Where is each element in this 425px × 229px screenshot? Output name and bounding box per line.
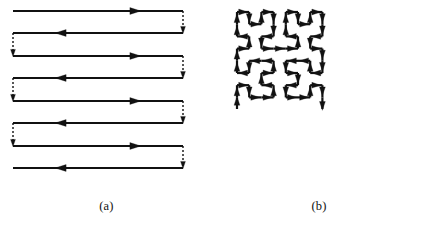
hilbert-arrow-39 [295,14,301,23]
hilbert-arrow-30 [259,38,265,47]
hilbert-arrow-25 [259,14,265,23]
hilbert-arrow-12 [251,58,260,64]
hilbert-arrow-19 [239,34,248,40]
hilbert-arrow-37 [283,14,289,23]
hilbert-arrow-36 [283,26,289,35]
hilbert-arrow-16 [234,50,240,59]
hilbert-arrow-35 [288,34,297,40]
hilbert-arrow-11 [263,58,272,64]
hilbert-entry-arrow [234,96,240,105]
hilbert-arrow-49 [320,63,326,72]
hilbert-arrow-13 [246,63,252,72]
hilbert-arrow-44 [320,26,326,35]
hilbert-arrow-21 [234,14,240,23]
scan-arrow-row-3 [130,53,141,60]
hilbert-arrow-9 [263,70,272,76]
hilbert-arrow-63 [320,87,326,96]
hilbert-arrow-61 [307,87,313,96]
caption-panel-a: (a) [0,200,213,213]
hilbert-arrow-1 [234,87,240,96]
scan-arrow-row-6 [55,120,66,127]
figure-root: (a) (b) [0,0,425,229]
hilbert-arrow-20 [234,26,240,35]
hilbert-arrow-5 [263,95,272,101]
hilbert-arrow-58 [283,87,289,96]
hilbert-arrow-18 [246,38,252,47]
hilbert-arrow-29 [263,34,272,40]
hilbert-arrow-28 [271,26,277,35]
hilbert-arrow-62 [312,82,321,88]
hilbert-arrow-46 [307,38,313,47]
panel-hilbert-curve: (b) [213,0,425,229]
hilbert-arrow-15 [234,63,240,72]
hilbert-arrow-45 [312,34,321,40]
hilbert-arrow-41 [307,14,313,23]
hilbert-arrow-47 [312,46,321,52]
hilbert-arrow-23 [246,14,252,23]
hilbert-curve-diagram [213,0,425,229]
scan-arrow-row-7 [130,143,141,150]
hilbert-arrow-55 [288,70,297,76]
caption-panel-b: (b) [213,200,425,213]
hilbert-arrow-4 [251,95,260,101]
hilbert-arrow-52 [300,58,309,64]
hilbert-arrow-31 [263,46,272,52]
panel-raster-scan: (a) [0,0,213,229]
hilbert-arrow-3 [246,87,252,96]
hilbert-arrow-2 [239,82,248,88]
hilbert-arrow-57 [288,82,297,88]
hilbert-arrow-50 [312,70,321,76]
hilbert-arrow-33 [288,46,297,52]
hilbert-arrow-10 [271,63,277,72]
hilbert-exit-arrow [320,102,326,111]
scan-arrow-row-4 [55,75,66,82]
hilbert-arrow-26 [263,9,272,15]
hilbert-arrow-60 [300,95,309,101]
hilbert-arrow-53 [288,58,297,64]
hilbert-arrow-43 [320,14,326,23]
scan-arrow-row-8 [55,165,66,172]
hilbert-arrow-27 [271,14,277,23]
hilbert-arrow-54 [283,63,289,72]
hilbert-arrow-17 [239,46,248,52]
hilbert-arrow-59 [288,95,297,101]
hilbert-arrow-32 [275,46,284,52]
hilbert-arrow-14 [239,70,248,76]
hilbert-arrow-7 [263,82,272,88]
hilbert-arrow-40 [300,21,309,27]
raster-scan-diagram [0,0,213,229]
scan-arrow-row-5 [130,98,141,105]
hilbert-arrow-42 [312,9,321,15]
hilbert-arrow-8 [259,75,265,84]
hilbert-arrow-38 [288,9,297,15]
scan-arrow-row-1 [130,8,141,15]
hilbert-arrow-34 [295,38,301,47]
hilbert-arrow-6 [271,87,277,96]
scan-arrow-row-2 [55,30,66,37]
hilbert-arrow-22 [239,9,248,15]
hilbert-arrow-56 [295,75,301,84]
hilbert-arrow-24 [251,21,260,27]
hilbert-arrow-48 [320,50,326,59]
hilbert-arrow-51 [307,63,313,72]
